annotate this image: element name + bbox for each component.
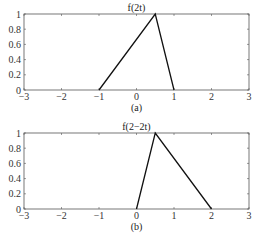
- chart-caption: (b): [131, 221, 143, 233]
- subplot-b: −3−2−1012300.20.40.60.81f(2−2t)(b): [9, 121, 252, 233]
- y-tick-label: 1: [16, 128, 21, 139]
- x-tick-label: −2: [56, 210, 67, 221]
- x-tick-label: 0: [134, 91, 139, 102]
- y-tick-label: 0.8: [9, 24, 22, 35]
- axes-box: [24, 14, 249, 90]
- y-tick-label: 0.8: [9, 143, 22, 154]
- y-tick-label: 0.4: [9, 173, 22, 184]
- x-tick-label: 1: [172, 91, 177, 102]
- series-line: [137, 133, 212, 209]
- y-tick-label: 0.2: [9, 188, 22, 199]
- series-line: [99, 14, 174, 90]
- axes-box: [24, 133, 249, 209]
- x-tick-label: 3: [247, 91, 252, 102]
- chart-title: f(2t): [128, 2, 146, 14]
- x-tick-label: 3: [247, 210, 252, 221]
- x-tick-label: −1: [94, 91, 105, 102]
- x-tick-label: −1: [94, 210, 105, 221]
- y-tick-label: 0.2: [9, 69, 22, 80]
- y-tick-label: 0.6: [9, 158, 22, 169]
- chart-caption: (a): [131, 102, 142, 114]
- x-tick-label: 2: [209, 91, 214, 102]
- x-tick-label: −2: [56, 91, 67, 102]
- y-tick-label: 0.4: [9, 54, 22, 65]
- chart-title: f(2−2t): [122, 121, 150, 133]
- x-tick-label: 1: [172, 210, 177, 221]
- subplot-a: −3−2−1012300.20.40.60.81f(2t)(a): [9, 2, 252, 114]
- y-tick-label: 1: [16, 9, 21, 20]
- x-tick-label: 2: [209, 210, 214, 221]
- y-tick-label: 0: [16, 204, 21, 215]
- y-tick-label: 0: [16, 85, 21, 96]
- chart-figure: −3−2−1012300.20.40.60.81f(2t)(a)−3−2−101…: [0, 0, 254, 239]
- y-tick-label: 0.6: [9, 39, 22, 50]
- x-tick-label: 0: [134, 210, 139, 221]
